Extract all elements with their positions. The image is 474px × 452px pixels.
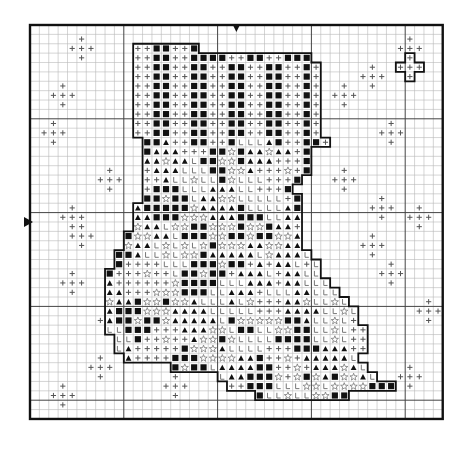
triangle-icon: [294, 215, 300, 220]
plus-icon: [182, 112, 187, 117]
plus-icon: [276, 271, 281, 276]
plus-icon: [210, 121, 215, 126]
star-outline-icon: [303, 298, 310, 305]
star-outline-icon: [219, 242, 226, 249]
star-outline-icon: [341, 383, 348, 390]
letter-l-icon: [277, 205, 281, 210]
plus-icon: [70, 271, 75, 276]
triangle-icon: [201, 327, 207, 332]
filled-square-icon: [172, 355, 178, 361]
filled-square-icon: [219, 177, 225, 183]
plus-icon: [107, 177, 112, 182]
filled-square-icon: [154, 55, 160, 61]
filled-square-icon: [210, 270, 216, 276]
plus-icon: [173, 65, 178, 70]
star-outline-icon: [162, 195, 169, 202]
star-outline-icon: [312, 392, 319, 399]
triangle-icon: [294, 252, 300, 257]
triangle-icon: [257, 243, 263, 248]
plus-icon: [295, 102, 300, 107]
filled-square-icon: [154, 111, 160, 117]
star-outline-icon: [341, 308, 348, 315]
filled-square-icon: [304, 336, 310, 342]
filled-square-icon: [266, 111, 272, 117]
filled-square-icon: [107, 270, 113, 276]
filled-square-icon: [191, 130, 197, 136]
plus-icon: [107, 187, 112, 192]
plus-icon: [342, 187, 347, 192]
plus-icon: [398, 374, 403, 379]
filled-square-icon: [210, 167, 216, 173]
plus-icon: [210, 74, 215, 79]
plus-icon: [220, 83, 225, 88]
filled-square-icon: [191, 364, 197, 370]
letter-l-icon: [258, 140, 262, 145]
star-outline-icon: [331, 298, 338, 305]
plus-icon: [135, 83, 140, 88]
filled-square-icon: [304, 102, 310, 108]
plus-icon: [313, 74, 318, 79]
plus-icon: [370, 83, 375, 88]
plus-icon: [407, 46, 412, 51]
filled-square-icon: [229, 83, 235, 89]
letter-l-icon: [343, 318, 347, 323]
star-outline-icon: [219, 223, 226, 230]
letter-l-icon: [314, 337, 318, 342]
plus-icon: [267, 168, 272, 173]
letter-l-icon: [324, 308, 328, 313]
filled-square-icon: [266, 92, 272, 98]
letter-l-icon: [277, 215, 281, 220]
triangle-icon: [154, 168, 160, 173]
plus-icon: [145, 83, 150, 88]
triangle-icon: [173, 308, 179, 313]
filled-square-icon: [238, 205, 244, 211]
plus-icon: [248, 65, 253, 70]
star-outline-icon: [200, 242, 207, 249]
letter-l-icon: [202, 168, 206, 173]
filled-square-icon: [247, 214, 253, 220]
plus-icon: [70, 215, 75, 220]
letter-l-icon: [249, 177, 253, 182]
plus-icon: [295, 130, 300, 135]
star-outline-icon: [200, 345, 207, 352]
plus-icon: [417, 215, 422, 220]
plus-icon: [182, 149, 187, 154]
filled-square-icon: [163, 64, 169, 70]
plus-icon: [285, 93, 290, 98]
filled-square-icon: [116, 261, 122, 267]
plus-icon: [145, 262, 150, 267]
filled-square-icon: [200, 252, 206, 258]
plus-icon: [276, 346, 281, 351]
letter-l-icon: [314, 271, 318, 276]
plus-icon: [135, 74, 140, 79]
letter-l-icon: [305, 393, 309, 398]
filled-square-icon: [172, 205, 178, 211]
plus-icon: [313, 130, 318, 135]
plus-icon: [182, 46, 187, 51]
plus-icon: [370, 74, 375, 79]
plus-icon: [285, 112, 290, 117]
filled-square-icon: [200, 130, 206, 136]
plus-icon: [70, 93, 75, 98]
triangle-icon: [304, 318, 310, 323]
star-outline-icon: [200, 336, 207, 343]
plus-icon: [145, 177, 150, 182]
triangle-icon: [191, 337, 197, 342]
plus-icon: [248, 74, 253, 79]
letter-l-icon: [192, 243, 196, 248]
filled-square-icon: [200, 139, 206, 145]
triangle-icon: [229, 290, 235, 295]
filled-square-icon: [154, 120, 160, 126]
plus-icon: [210, 83, 215, 88]
plus-icon: [360, 327, 365, 332]
filled-square-icon: [154, 205, 160, 211]
triangle-icon: [116, 290, 122, 295]
plus-icon: [313, 93, 318, 98]
star-outline-icon: [228, 167, 235, 174]
star-outline-icon: [172, 279, 179, 286]
filled-square-icon: [266, 74, 272, 80]
filled-square-icon: [135, 308, 141, 314]
letter-l-icon: [174, 262, 178, 267]
star-outline-icon: [275, 317, 282, 324]
filled-square-icon: [163, 55, 169, 61]
